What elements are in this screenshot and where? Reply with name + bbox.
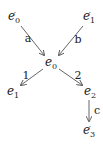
node-e1-prime: e′1 bbox=[83, 10, 95, 25]
edge-label-1: 1 bbox=[23, 70, 30, 81]
commutative-diagram: e′0 e′1 e0 e1 e2 e′3 a b 1 2 c bbox=[0, 0, 103, 146]
node-subscript: 2 bbox=[91, 91, 96, 100]
node-subscript: 1 bbox=[14, 91, 19, 100]
node-e0-prime: e′0 bbox=[8, 10, 20, 25]
edge-label-2: 2 bbox=[75, 70, 82, 81]
node-e2: e2 bbox=[84, 85, 96, 100]
node-prime: ′ bbox=[89, 11, 91, 19]
node-prime: ′ bbox=[89, 125, 91, 133]
node-e0: e0 bbox=[45, 56, 57, 71]
edge-label-c: c bbox=[94, 105, 100, 116]
edge-label-b: b bbox=[74, 34, 81, 45]
node-e3-prime: e′3 bbox=[83, 124, 95, 139]
edge-label-a: a bbox=[25, 33, 32, 44]
node-prime: ′ bbox=[14, 11, 16, 19]
node-e1: e1 bbox=[7, 85, 19, 100]
node-subscript: 0 bbox=[52, 62, 57, 71]
